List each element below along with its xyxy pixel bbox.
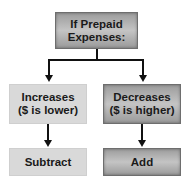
increases-label: Increases	[18, 91, 78, 104]
root-node: If Prepaid Expenses:	[55, 12, 138, 49]
connector-right-down	[142, 59, 144, 76]
decreases-sublabel: ($ is higher)	[109, 104, 174, 117]
connector-horizontal	[48, 59, 144, 61]
increases-node: Increases ($ is lower)	[9, 84, 87, 124]
arrow-down-add-icon	[138, 140, 146, 147]
increases-sublabel: ($ is lower)	[18, 104, 78, 117]
decreases-label: Decreases	[109, 91, 174, 104]
add-label: Add	[131, 156, 153, 169]
decreases-node: Decreases ($ is higher)	[103, 84, 181, 124]
connector-increases-down	[47, 124, 49, 141]
arrow-left-icon	[45, 75, 53, 82]
add-node: Add	[103, 148, 181, 176]
subtract-node: Subtract	[9, 148, 87, 176]
arrow-right-icon	[139, 75, 147, 82]
connector-left-down	[48, 59, 50, 76]
root-label-line2: Expenses:	[68, 31, 126, 44]
connector-decreases-down	[141, 124, 143, 141]
arrow-down-subtract-icon	[44, 140, 52, 147]
root-label-line1: If Prepaid	[68, 18, 126, 31]
subtract-label: Subtract	[25, 156, 72, 169]
